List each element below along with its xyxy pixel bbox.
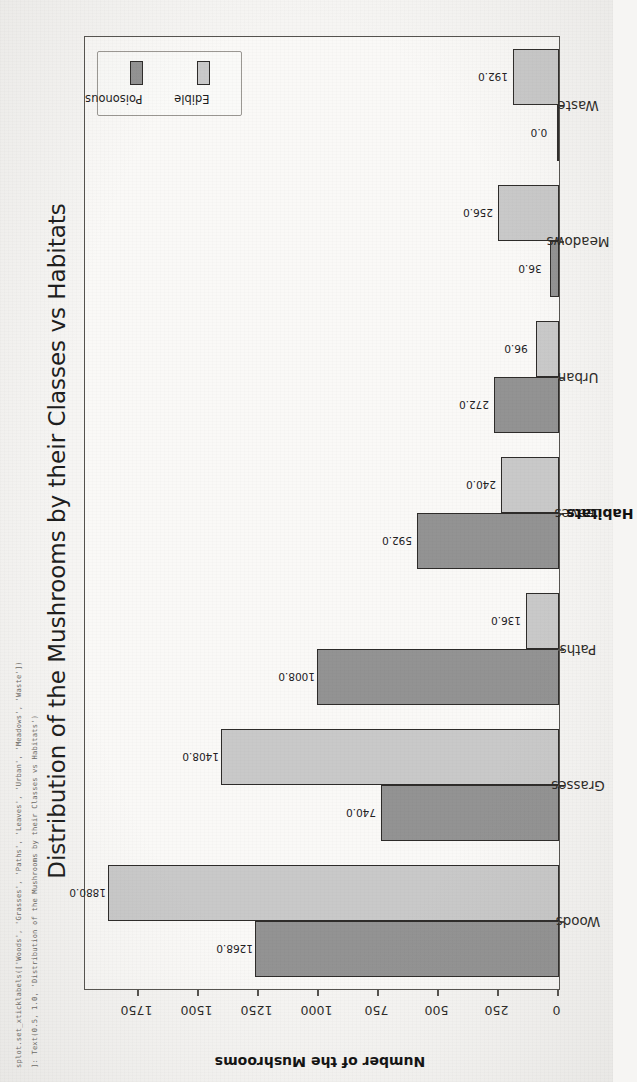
y-tick-label: 250 (475, 1003, 519, 1018)
y-tick-mark (377, 990, 378, 996)
legend-item-edible[interactable]: Edible (172, 61, 234, 106)
code-output-strip: splot.set_xticklabels(['Woods', 'Grasses… (0, 0, 40, 1082)
y-tick-mark (137, 990, 138, 996)
y-tick-label: 1500 (175, 1003, 219, 1018)
bar-leaves-edible (501, 457, 559, 513)
x-tick-label-woods: Woods (533, 914, 623, 930)
bar-grasses-edible (221, 729, 559, 785)
y-tick-label: 500 (415, 1003, 459, 1018)
bar-value-label: 1408.0 (183, 751, 219, 763)
bar-value-label: 240.0 (463, 479, 499, 491)
y-tick-mark (557, 990, 558, 996)
y-tick-mark (497, 990, 498, 996)
legend-swatch-poisonous (130, 61, 143, 85)
bar-value-label: 1268.0 (217, 943, 253, 955)
x-tick-label-urban: Urban (533, 370, 623, 386)
plot-area: 1268.01880.0740.01408.01008.0136.0592.02… (84, 36, 560, 990)
x-tick-label-meadows: Meadows (533, 234, 623, 250)
legend-label: Poisonous (130, 92, 143, 106)
code-line-title-output: ]: Text(0.5, 1.0, 'Distribution of the M… (30, 715, 39, 1068)
legend-label-wrap: Poisonous (105, 92, 167, 106)
bars-container: 1268.01880.0740.01408.01008.0136.0592.02… (85, 37, 559, 989)
bar-meadows-edible (498, 185, 559, 241)
bar-waste-edible (513, 49, 559, 105)
bar-value-label: 592.0 (379, 535, 415, 547)
y-tick-mark (437, 990, 438, 996)
bar-value-label: 136.0 (488, 615, 524, 627)
bar-urban-edible (536, 321, 559, 377)
x-tick-label-paths: Paths (533, 642, 623, 658)
matplotlib-figure: Distribution of the Mushrooms by their C… (38, 0, 613, 1082)
bar-woods-poisonous (255, 921, 559, 977)
chart-title: Distribution of the Mushrooms by their C… (44, 0, 70, 1082)
bar-value-label: 36.0 (512, 263, 548, 275)
y-tick-label: 0 (535, 1003, 579, 1018)
bar-value-label: 192.0 (475, 71, 511, 83)
x-axis-label: Habitats (540, 506, 637, 522)
legend-label: Edible (197, 92, 210, 106)
bar-value-label: 1008.0 (279, 671, 315, 683)
bar-value-label: 96.0 (498, 343, 534, 355)
bar-paths-edible (526, 593, 559, 649)
rotated-figure-wrapper: Distribution of the Mushrooms by their C… (38, 0, 613, 1082)
y-tick-mark (257, 990, 258, 996)
code-line-set-xticklabels: splot.set_xticklabels(['Woods', 'Grasses… (14, 661, 23, 1068)
y-axis-label: Number of the Mushrooms (83, 1054, 557, 1070)
bar-paths-poisonous (317, 649, 559, 705)
y-tick-mark (197, 990, 198, 996)
x-tick-label-waste: Waste (533, 98, 623, 114)
y-tick-label: 1250 (235, 1003, 279, 1018)
legend-swatch-edible (197, 61, 210, 85)
bar-value-label: 0.0 (521, 127, 557, 139)
y-tick-label: 1000 (295, 1003, 339, 1018)
bar-value-label: 1880.0 (70, 887, 106, 899)
x-tick-label-grasses: Grasses (533, 778, 623, 794)
y-tick-label: 750 (355, 1003, 399, 1018)
y-tick-mark (317, 990, 318, 996)
bar-woods-edible (108, 865, 559, 921)
bar-value-label: 256.0 (460, 207, 496, 219)
bar-value-label: 272.0 (456, 399, 492, 411)
chart-legend: PoisonousEdible (97, 51, 242, 116)
legend-item-poisonous[interactable]: Poisonous (105, 61, 167, 106)
legend-label-wrap: Edible (172, 92, 234, 106)
bar-value-label: 740.0 (343, 807, 379, 819)
y-tick-label: 1750 (115, 1003, 159, 1018)
